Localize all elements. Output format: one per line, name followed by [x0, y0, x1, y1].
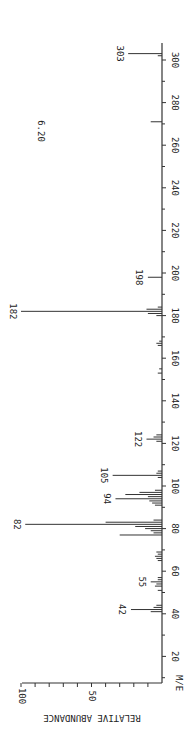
mz-axis: 2040608010012014016018020022024026028030…: [162, 43, 180, 683]
mz-tick-label: 60: [170, 566, 180, 577]
mz-tick-label: 300: [170, 52, 180, 68]
mz-tick-label: 40: [170, 608, 180, 619]
mz-tick-label: 160: [170, 350, 180, 366]
mz-tick-label: 260: [170, 137, 180, 153]
peak-label: 94: [102, 493, 112, 504]
mz-tick-label: 200: [170, 265, 180, 281]
mz-tick-label: 220: [170, 222, 180, 238]
figure-annotation: 6.20: [36, 120, 46, 142]
peak-label: 42: [117, 604, 127, 615]
mz-tick-label: 140: [170, 393, 180, 409]
mz-tick-label: 120: [170, 435, 180, 451]
abundance-axis: 10050: [17, 683, 163, 704]
mz-tick-label: 280: [170, 94, 180, 110]
peak-label: 303: [115, 45, 125, 61]
peak-label: 55: [137, 576, 147, 587]
abundance-tick-label: 100: [17, 688, 27, 704]
x-axis-label: M/E: [174, 675, 184, 691]
mz-tick-label: 100: [170, 478, 180, 494]
y-axis-label: RELATIVE ABUNDANCE: [43, 713, 141, 723]
mz-tick-label: 180: [170, 307, 180, 323]
mass-spectrum-chart: 2040608010012014016018020022024026028030…: [0, 0, 196, 755]
mz-tick-label: 80: [170, 523, 180, 534]
peak-label: 82: [12, 519, 22, 530]
peak-label: 122: [133, 431, 143, 447]
mz-tick-label: 20: [170, 651, 180, 662]
abundance-tick-label: 50: [87, 691, 97, 702]
peak-label: 198: [134, 269, 144, 285]
peak-label: 182: [8, 303, 18, 319]
mz-tick-label: 240: [170, 180, 180, 196]
peak-label: 105: [99, 467, 109, 483]
peak-labels: 42558294105122182198303: [8, 45, 148, 614]
